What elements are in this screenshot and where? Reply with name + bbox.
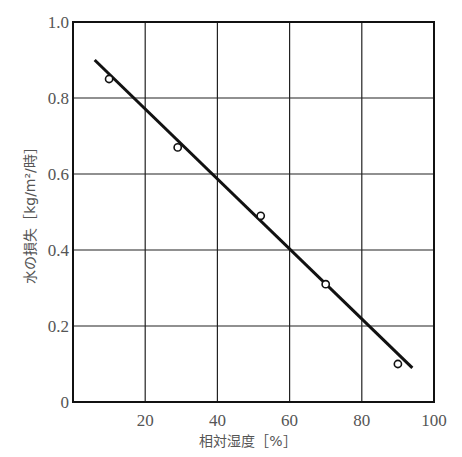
data-point-marker [322,281,329,288]
y-axis-ticks: 00.20.40.60.81.0 [48,13,70,412]
x-axis-title: 相対湿度［%］ [199,433,296,449]
y-tick-label: 0 [61,393,70,412]
y-tick-label: 1.0 [48,13,69,32]
regression-line [95,60,413,368]
y-tick-label: 0.6 [48,165,69,184]
data-point-marker [394,360,401,367]
chart: 00.20.40.60.81.0 20406080100 相対湿度［%］ 水の損… [0,0,462,457]
x-axis-ticks: 20406080100 [137,411,447,430]
y-tick-label: 0.8 [48,89,69,108]
x-tick-label: 60 [281,411,298,430]
data-point-marker [174,144,181,151]
y-axis-title: 水の損失［kg/m²/時］ [22,140,38,284]
y-tick-label: 0.2 [48,317,69,336]
data-point-marker [106,75,113,82]
y-tick-label: 0.4 [48,241,70,260]
data-points [106,75,402,367]
x-tick-label: 80 [353,411,370,430]
x-tick-label: 20 [137,411,154,430]
x-tick-label: 40 [209,411,226,430]
x-tick-label: 100 [421,411,447,430]
data-point-marker [257,212,264,219]
